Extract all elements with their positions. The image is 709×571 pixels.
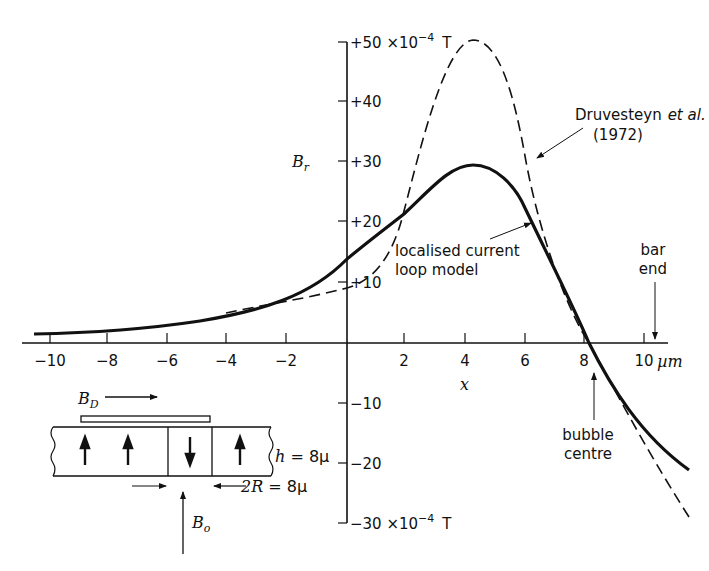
x-tick-label: 8 xyxy=(579,352,589,370)
y-tick-label: −30 ×10−4T xyxy=(350,512,452,533)
conductor-bar xyxy=(81,416,210,422)
bo-label: Bo xyxy=(191,513,211,535)
svg-text:loop model: loop model xyxy=(395,261,479,279)
x-tick-label: −10 xyxy=(34,352,66,370)
svg-text:centre: centre xyxy=(564,445,612,463)
svg-text:Druvesteynet al.: Druvesteynet al. xyxy=(575,106,706,124)
svg-text:end: end xyxy=(639,260,667,278)
x-axis: −10 −8 −6 −4 −2 2 4 6 8 10 µm x xyxy=(22,333,683,394)
x-tick-label: 6 xyxy=(520,352,530,370)
x-tick-label: 2 xyxy=(399,352,409,370)
y-tick-label: +40 xyxy=(350,93,382,111)
magnetization-arrows xyxy=(81,437,244,465)
x-unit-label: µm xyxy=(657,352,683,371)
chart-figure: −10 −8 −6 −4 −2 2 4 6 8 10 µm x +50 ×10−… xyxy=(0,0,709,571)
bd-label: BD xyxy=(77,389,99,411)
x-tick-label: −2 xyxy=(275,352,297,370)
bubble-centre-annotation: bubble centre xyxy=(562,373,613,463)
x-axis-title: x xyxy=(460,375,469,394)
bar-end-annotation: bar end xyxy=(639,241,667,339)
bubble-domain-inset: BD h = 8µ 2R = 8µ Bo xyxy=(51,389,329,554)
current-loop-annotation: localised current loop model xyxy=(395,223,531,279)
y-tick-label: +10 xyxy=(350,274,382,292)
x-tick-label: −4 xyxy=(215,352,237,370)
svg-text:localised current: localised current xyxy=(395,242,520,260)
thickness-label: h = 8µ xyxy=(275,447,329,466)
svg-text:bubble: bubble xyxy=(562,426,613,444)
y-axis-title: Br xyxy=(291,152,310,174)
y-tick-label: −10 xyxy=(350,395,382,413)
x-tick-label: −8 xyxy=(96,352,118,370)
druvesteyn-annotation: Druvesteynet al. (1972) xyxy=(537,106,706,158)
y-tick-label: −20 xyxy=(350,455,382,473)
current-loop-curve xyxy=(34,165,689,470)
x-tick-label: 4 xyxy=(460,352,470,370)
x-tick-label: −6 xyxy=(156,352,178,370)
y-tick-label: +30 xyxy=(350,153,382,171)
y-tick-label: +20 xyxy=(350,213,382,231)
x-tick-label: 10 xyxy=(634,352,653,370)
diameter-label: 2R = 8µ xyxy=(240,477,307,496)
svg-text:(1972): (1972) xyxy=(593,126,643,144)
y-tick-label: +50 ×10−4T xyxy=(350,31,452,52)
svg-text:bar: bar xyxy=(641,241,667,259)
